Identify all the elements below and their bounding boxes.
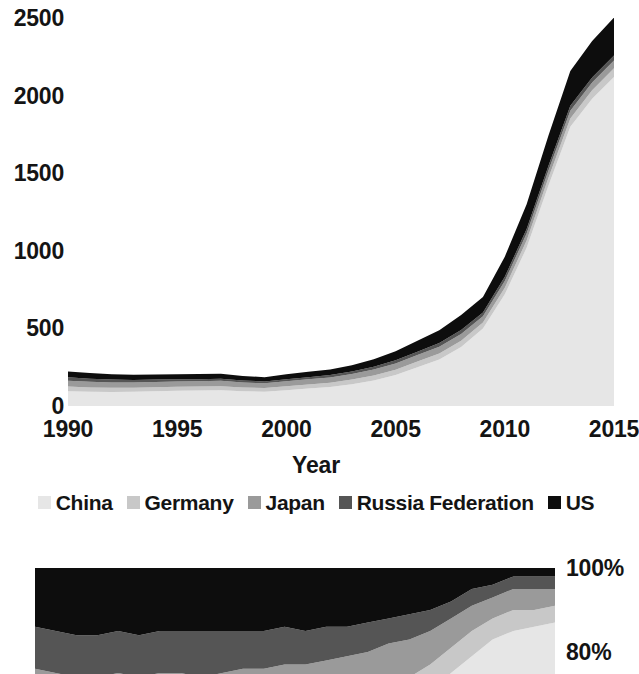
y-axis-tick-100pct: 100% (566, 557, 624, 580)
plot-area-bottom-chart (35, 568, 555, 674)
y-axis-tick-80pct: 80% (566, 641, 611, 664)
legend-swatch-germany (127, 496, 140, 509)
x-axis-tick-2000: 2000 (261, 418, 311, 441)
y-axis-top-chart: 25002000150010005000 (0, 0, 64, 410)
x-axis-tick-2015: 2015 (589, 418, 639, 441)
legend-swatch-japan (248, 496, 261, 509)
legend-item-germany: Germany (127, 492, 234, 513)
legend-item-china: China (38, 492, 113, 513)
legend-label-russia-federation: Russia Federation (357, 492, 534, 513)
y-axis-tick-2000: 2000 (2, 85, 64, 108)
y-axis-tick-1500: 1500 (2, 162, 64, 185)
bottom-percent-area-chart: 100%80% (0, 540, 632, 674)
legend-item-japan: Japan (248, 492, 325, 513)
x-axis-tick-2005: 2005 (370, 418, 420, 441)
x-axis-tick-1990: 1990 (43, 418, 93, 441)
x-axis-title: Year (0, 452, 632, 479)
chart-legend: ChinaGermanyJapanRussia FederationUS (0, 488, 632, 516)
y-axis-tick-1000: 1000 (2, 240, 64, 263)
legend-swatch-china (38, 496, 51, 509)
y-axis-tick-500: 500 (2, 317, 64, 340)
area-series-china (68, 77, 614, 406)
legend-swatch-us (548, 496, 561, 509)
y-axis-tick-2500: 2500 (2, 7, 64, 30)
top-area-chart: 25002000150010005000 1990199520002005201… (0, 0, 632, 445)
legend-item-russia-federation: Russia Federation (339, 492, 534, 513)
x-axis-tick-1995: 1995 (152, 418, 202, 441)
legend-label-japan: Japan (266, 492, 325, 513)
bottom-chart-svg (35, 568, 555, 674)
legend-swatch-russia (339, 496, 352, 509)
x-axis-tick-2010: 2010 (480, 418, 530, 441)
top-chart-svg (68, 18, 614, 406)
legend-item-us: US (548, 492, 595, 513)
plot-area-top-chart (68, 18, 614, 406)
legend-label-china: China (56, 492, 113, 513)
legend-label-germany: Germany (145, 492, 234, 513)
legend-label-us: US (566, 492, 595, 513)
x-axis-top-chart: 199019952000200520102015 (0, 412, 632, 444)
